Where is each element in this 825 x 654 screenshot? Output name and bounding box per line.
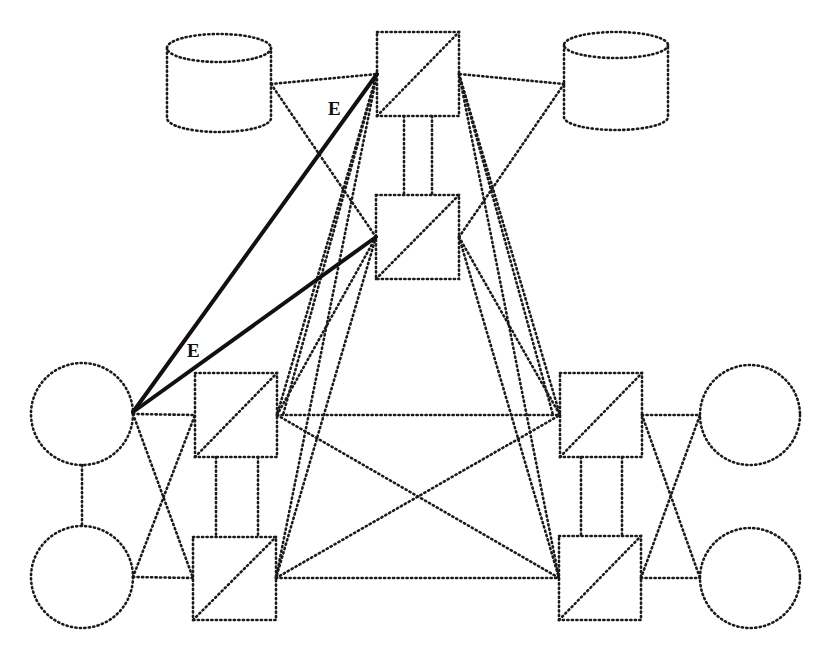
edge-label-lower: E — [187, 340, 200, 361]
dotted-link — [271, 74, 377, 84]
host-left-upper-host-icon — [31, 363, 133, 465]
switch-left-lower-switch-icon — [193, 537, 276, 620]
highlighted-path-layer — [133, 74, 377, 412]
edge-label-upper: E — [328, 98, 341, 119]
host-right-lower-host-icon — [700, 528, 800, 628]
dotted-link — [133, 414, 195, 415]
db-right-database-icon — [564, 32, 668, 130]
db-left-database-icon — [167, 34, 271, 132]
dotted-link — [276, 74, 377, 578]
switch-right-lower-switch-icon — [559, 536, 641, 620]
switch-mid-switch-icon — [376, 195, 459, 279]
dotted-link — [641, 415, 700, 578]
dotted-link — [459, 84, 564, 237]
switch-left-upper-switch-icon — [195, 373, 277, 457]
dotted-link — [276, 237, 376, 578]
switch-right-upper-switch-icon — [560, 373, 642, 457]
dotted-link — [133, 577, 193, 578]
dotted-links-layer — [82, 74, 700, 578]
dotted-link — [459, 237, 559, 578]
switch-top-switch-icon — [377, 32, 459, 116]
highlighted-link — [133, 74, 377, 412]
dotted-link — [459, 74, 553, 415]
network-topology-diagram: EE — [0, 0, 825, 654]
highlighted-link — [133, 237, 376, 412]
dotted-link — [459, 74, 559, 578]
host-left-lower-host-icon — [31, 526, 133, 628]
host-right-upper-host-icon — [700, 365, 800, 465]
dotted-link — [459, 74, 564, 84]
dotted-link — [271, 84, 376, 237]
